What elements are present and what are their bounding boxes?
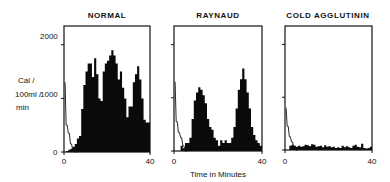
y-axis-label-line-1: Cal /: [18, 76, 35, 85]
panel-raynaud: [171, 26, 262, 154]
x-tick-0-raynaud: 0: [172, 157, 177, 166]
histogram-bars: [64, 50, 150, 152]
panel-title-normal: NORMAL: [88, 11, 127, 20]
y-axis-label-line-3: min: [16, 103, 29, 112]
panel-frame: [285, 26, 372, 150]
initial-curve: [65, 82, 77, 152]
panel-title-cold-agglutinin: COLD AGGLUTININ: [286, 11, 369, 20]
y-tick-0: 0: [53, 148, 58, 157]
y-axis-label-line-2: 100ml /: [15, 90, 42, 99]
initial-curve: [175, 82, 187, 151]
y-tick-2000: 2000: [40, 32, 58, 41]
histogram-bars: [174, 69, 262, 151]
x-tick-0-normal: 0: [62, 157, 67, 166]
x-tick-0-cold: 0: [283, 157, 288, 166]
initial-curve: [286, 108, 298, 150]
figure: Cal / 100ml / min 2000 1000 0 NORMAL RAY…: [0, 0, 390, 182]
y-tick-1000: 1000: [40, 90, 58, 99]
x-axis-label: Time in Minutes: [190, 170, 246, 179]
panel-normal: [61, 26, 150, 155]
x-tick-40-normal: 40: [146, 157, 155, 166]
x-tick-40-cold: 40: [368, 157, 377, 166]
histogram-bars: [285, 144, 372, 150]
x-tick-40-raynaud: 40: [258, 157, 267, 166]
panel-title-raynaud: RAYNAUD: [196, 11, 239, 20]
panel-cold-agglutinin: [282, 26, 372, 153]
